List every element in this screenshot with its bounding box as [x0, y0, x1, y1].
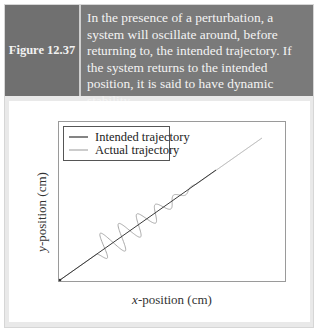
x-axis-label: x-position (cm) [131, 292, 212, 307]
origin-marker [59, 279, 62, 282]
legend-intended-label: Intended trajectory [95, 130, 190, 144]
chart: Intended trajectory Actual trajectory x-… [0, 0, 319, 333]
intended-trajectory-line [60, 170, 216, 280]
y-axis-label: y-position (cm) [34, 172, 49, 254]
legend-actual-label: Actual trajectory [95, 143, 180, 157]
